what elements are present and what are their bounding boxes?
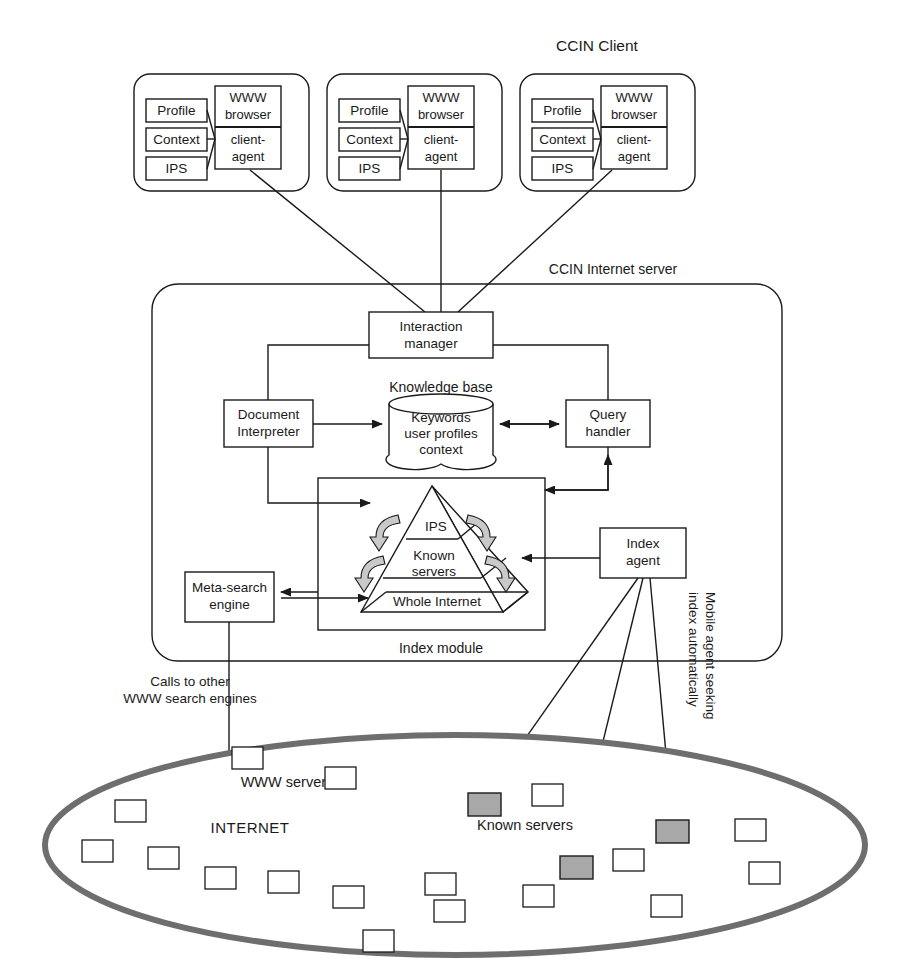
www-server-box [148, 847, 179, 869]
svg-text:WWW: WWW [423, 90, 461, 105]
client-2-ips-box-label: IPS [359, 161, 381, 176]
svg-text:agent: agent [618, 149, 651, 164]
svg-text:client-: client- [424, 132, 459, 147]
client-1-ips-box-label: IPS [166, 161, 188, 176]
known-server-box [656, 820, 689, 843]
svg-text:manager: manager [404, 336, 458, 351]
ccin-client-2[interactable]: Profile Context IPS WWW browser client- … [327, 74, 502, 191]
query-handler-node[interactable]: Query handler [566, 400, 650, 447]
internet-label: INTERNET [211, 819, 290, 836]
svg-text:browser: browser [418, 107, 465, 122]
index-agent-line-2: agent [626, 553, 660, 568]
www-server-box [523, 885, 554, 907]
known-server-box [560, 856, 593, 879]
kb-line-1: Keywords [411, 410, 471, 425]
index-pyramid: IPS Known servers Whole Internet [355, 486, 528, 612]
www-server-box [82, 840, 113, 862]
edge-im-to-document-interpreter [268, 345, 369, 400]
www-server-box [434, 900, 465, 922]
svg-text:client-: client- [231, 132, 266, 147]
www-server-box [205, 867, 236, 889]
document-interpreter-line-2: Interpreter [237, 424, 300, 439]
meta-search-line-1: Meta-search [192, 580, 267, 595]
mobile-agent-line-1: Mobile agent seeking [703, 592, 718, 720]
client-3-context-box-label: Context [539, 132, 586, 147]
www-server-box [735, 819, 766, 841]
svg-text:WWW: WWW [230, 90, 268, 105]
ccin-client-1[interactable]: Profile Context IPS WWW browser client- … [134, 74, 309, 191]
interaction-manager-node[interactable]: Interaction manager [369, 312, 493, 358]
known-servers-label: Known servers [477, 817, 573, 833]
www-server-box [651, 895, 682, 917]
kb-line-3: context [419, 442, 463, 457]
client-1-context-box-label: Context [153, 132, 200, 147]
edge-di-to-index-module [268, 447, 370, 503]
document-interpreter-node[interactable]: Document Interpreter [224, 400, 313, 447]
svg-text:agent: agent [425, 149, 458, 164]
www-server-box [613, 849, 644, 871]
document-interpreter-line-1: Document [238, 407, 300, 422]
www-server-box [115, 800, 146, 822]
knowledge-base-cylinder[interactable]: Keywords user profiles context [386, 394, 496, 470]
edge-im-to-query-handler [493, 345, 608, 400]
client-3-ips-box-label: IPS [552, 161, 574, 176]
index-module-label: Index module [399, 640, 483, 656]
www-server-box [232, 747, 263, 769]
www-server-box [532, 784, 563, 806]
edge-index-module-to-qh-left [545, 447, 608, 490]
diagram-canvas: CCIN Client Profile Context IPS WWW brow… [0, 0, 911, 975]
client-1-profile-box-label: Profile [157, 103, 195, 118]
query-handler-line-1: Query [590, 407, 627, 422]
www-server-box [425, 873, 456, 895]
calls-to-other-line-2: WWW search engines [123, 691, 257, 706]
client-2-profile-box-label: Profile [350, 103, 388, 118]
svg-text:agent: agent [232, 149, 265, 164]
svg-text:Interaction: Interaction [399, 319, 462, 334]
ccin-client-title: CCIN Client [556, 37, 639, 54]
mobile-agent-line-2: index automatically [686, 592, 701, 707]
calls-to-other-line-1: Calls to other [150, 674, 230, 689]
svg-text:client-: client- [617, 132, 652, 147]
svg-text:WWW: WWW [616, 90, 654, 105]
www-servers-label: WWW servers [241, 774, 334, 790]
edge-index-module-to-qh [545, 455, 608, 490]
query-handler-line-2: handler [585, 424, 631, 439]
svg-text:browser: browser [611, 107, 658, 122]
www-server-box [333, 886, 364, 908]
index-agent-line-1: Index [626, 536, 659, 551]
knowledge-base-label: Knowledge base [389, 379, 493, 395]
pyramid-tier-known-line-1: Known [413, 548, 454, 563]
ccin-server-title: CCIN Internet server [549, 261, 678, 277]
pyramid-tier-whole-internet: Whole Internet [393, 594, 481, 609]
known-server-box [468, 793, 501, 816]
pyramid-tier-ips: IPS [425, 519, 447, 534]
client-3-profile-box-label: Profile [543, 103, 581, 118]
svg-text:browser: browser [225, 107, 272, 122]
meta-search-engine-node[interactable]: Meta-search engine [185, 572, 274, 622]
pyramid-tier-known-line-2: servers [412, 564, 457, 579]
www-server-box [325, 767, 356, 789]
www-server-box [268, 871, 299, 893]
client-2-context-box-label: Context [346, 132, 393, 147]
www-server-box [749, 862, 780, 884]
www-server-box [363, 930, 394, 952]
index-agent-node[interactable]: Index agent [600, 528, 686, 578]
kb-line-2: user profiles [404, 426, 478, 441]
meta-search-line-2: engine [209, 597, 250, 612]
